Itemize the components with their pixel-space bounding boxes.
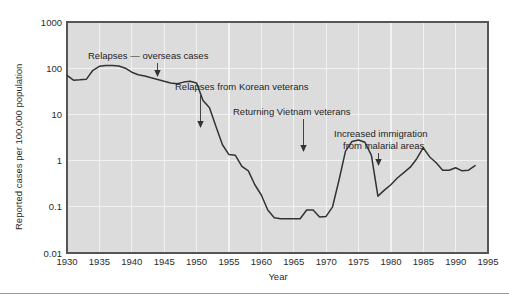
annotation-label: Relapses — overseas cases bbox=[88, 50, 209, 61]
annotation-label-line2: from malarial areas bbox=[343, 140, 425, 151]
annotation-label: Relapses from Korean veterans bbox=[175, 81, 309, 92]
x-tick-1980: 1980 bbox=[380, 256, 401, 267]
x-tick-1970: 1970 bbox=[316, 256, 337, 267]
x-tick-1940: 1940 bbox=[121, 256, 142, 267]
y-tick-1: 1 bbox=[57, 155, 62, 166]
malaria-incidence-line-chart: 1000 100 10 1 0.1 0.01 Reported cases pe… bbox=[0, 0, 509, 301]
x-tick-1955: 1955 bbox=[218, 256, 239, 267]
y-tick-0.1: 0.1 bbox=[49, 201, 62, 212]
x-axis-tick-labels: 1930 1935 1940 1945 1950 1955 1960 1965 … bbox=[56, 256, 498, 267]
x-tick-1945: 1945 bbox=[154, 256, 175, 267]
x-tick-1965: 1965 bbox=[283, 256, 304, 267]
x-tick-1950: 1950 bbox=[186, 256, 207, 267]
x-tick-1960: 1960 bbox=[251, 256, 272, 267]
x-axis-title: Year bbox=[268, 271, 287, 282]
y-axis-title: Reported cases per 100,000 population bbox=[13, 64, 24, 230]
y-tick-100: 100 bbox=[46, 63, 62, 74]
x-tick-1985: 1985 bbox=[413, 256, 434, 267]
x-tick-1975: 1975 bbox=[348, 256, 369, 267]
x-tick-1990: 1990 bbox=[445, 256, 466, 267]
x-tick-1935: 1935 bbox=[89, 256, 110, 267]
annotation-label: Returning Vietnam veterans bbox=[233, 106, 351, 117]
x-tick-1930: 1930 bbox=[56, 256, 77, 267]
y-axis-tick-labels: 1000 100 10 1 0.1 0.01 bbox=[41, 17, 62, 259]
y-tick-10: 10 bbox=[51, 109, 62, 120]
chart-figure: 1000 100 10 1 0.1 0.01 Reported cases pe… bbox=[0, 0, 509, 301]
x-tick-1995: 1995 bbox=[477, 256, 498, 267]
annotation-label-line1: Increased immigration bbox=[334, 128, 427, 139]
y-tick-1000: 1000 bbox=[41, 17, 62, 28]
